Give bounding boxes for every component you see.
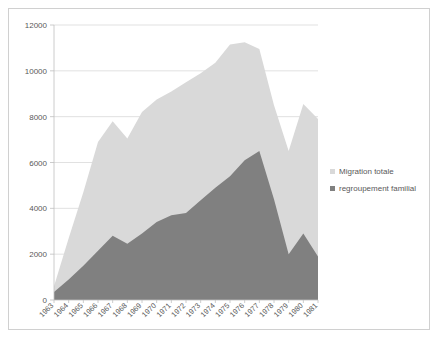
x-axis-tick-label: 1981 bbox=[301, 301, 319, 319]
x-axis-tick-label: 1972 bbox=[169, 301, 187, 319]
chart-container: 020004000600080001000012000 196319641965… bbox=[0, 0, 440, 348]
x-axis-tick-label: 1976 bbox=[228, 301, 246, 319]
x-axis-tick-label: 1975 bbox=[213, 301, 231, 319]
legend-swatch bbox=[330, 169, 335, 174]
x-axis-tick-label: 1978 bbox=[257, 301, 275, 319]
x-axis-tick-label: 1980 bbox=[287, 301, 305, 319]
x-axis-tick-label: 1973 bbox=[184, 301, 202, 319]
area-chart: 020004000600080001000012000 196319641965… bbox=[0, 0, 440, 348]
x-axis-tick-label: 1965 bbox=[67, 301, 85, 319]
y-axis-tick-label: 4000 bbox=[29, 204, 47, 213]
y-axis-tick-label: 8000 bbox=[29, 113, 47, 122]
x-axis-tick-label: 1966 bbox=[81, 301, 99, 319]
chart-legend: Migration totaleregroupement familial bbox=[330, 167, 416, 193]
x-axis-tick-label: 1974 bbox=[199, 301, 217, 319]
legend-swatch bbox=[330, 186, 335, 191]
x-axis-tick-label: 1967 bbox=[96, 301, 114, 319]
x-axis-tick-label: 1969 bbox=[125, 301, 143, 319]
chart-series-areas bbox=[54, 42, 318, 300]
x-axis-tick-label: 1977 bbox=[243, 301, 261, 319]
x-axis-tick-label: 1970 bbox=[140, 301, 158, 319]
y-axis-tick-label: 6000 bbox=[29, 159, 47, 168]
legend-label: regroupement familial bbox=[339, 184, 416, 193]
y-axis-tick-label: 2000 bbox=[29, 250, 47, 259]
legend-label: Migration totale bbox=[339, 167, 394, 176]
y-axis-tick-label: 10000 bbox=[25, 67, 48, 76]
x-axis-tick-label: 1968 bbox=[111, 301, 129, 319]
y-axis-tick-label: 12000 bbox=[25, 21, 48, 30]
x-axis-tick-label: 1979 bbox=[272, 301, 290, 319]
x-axis-tick-label: 1964 bbox=[52, 301, 70, 319]
x-axis-tick-label: 1971 bbox=[155, 301, 173, 319]
x-axis-tick-label: 1963 bbox=[37, 301, 55, 319]
x-axis-tick-labels: 1963196419651966196719681969197019711972… bbox=[37, 300, 319, 319]
y-axis-tick-labels: 020004000600080001000012000 bbox=[25, 21, 54, 305]
